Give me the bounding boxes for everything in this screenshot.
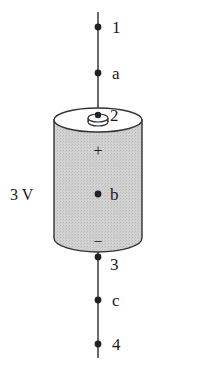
negative-symbol: −	[93, 233, 102, 250]
voltage-label: 3 V	[10, 186, 34, 203]
point-c-label: c	[112, 291, 120, 310]
point-2-dot	[95, 112, 101, 118]
point-4-dot	[95, 341, 102, 348]
point-b-dot	[95, 191, 102, 198]
point-b-label: b	[110, 185, 119, 204]
point-1-dot	[95, 24, 102, 31]
point-3-dot	[95, 254, 102, 261]
positive-symbol: +	[93, 142, 102, 159]
battery-diagram: + − 3 V 1 a 2 b 3 c 4	[0, 0, 222, 370]
point-3-label: 3	[110, 255, 119, 274]
diagram-svg: + − 3 V 1 a 2 b 3 c 4	[0, 0, 222, 370]
battery-cylinder	[54, 108, 142, 252]
point-a-dot	[95, 70, 102, 77]
point-c-dot	[95, 297, 102, 304]
point-1-label: 1	[112, 18, 121, 37]
point-a-label: a	[112, 64, 120, 83]
point-2-label: 2	[110, 106, 119, 125]
point-4-label: 4	[112, 335, 121, 354]
